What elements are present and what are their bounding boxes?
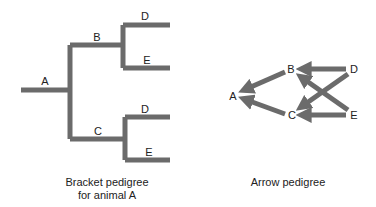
arrow-label-b: B [287, 64, 294, 75]
bracket-label-c: C [94, 126, 102, 137]
bracket-caption: Bracket pedigree for animal A [65, 176, 148, 202]
arrow-label-e: E [350, 110, 357, 121]
bracket-label-a: A [41, 76, 48, 87]
bracket-caption-line2: for animal A [65, 189, 148, 202]
arrow-caption: Arrow pedigree [251, 176, 326, 189]
arrow-label-d: D [350, 64, 358, 75]
bracket-label-b: B [93, 32, 100, 43]
arrow-b-to-a [244, 72, 285, 90]
bracket-pedigree [21, 25, 170, 160]
bracket-caption-line1: Bracket pedigree [65, 176, 148, 189]
arrow-c-to-a [244, 99, 285, 114]
bracket-label-e-bottom: E [145, 147, 152, 158]
bracket-label-e-top: E [143, 55, 150, 66]
arrow-label-c: C [288, 110, 296, 121]
bracket-label-d-top: D [141, 11, 149, 22]
arrow-label-a: A [229, 91, 236, 102]
bracket-label-d-bottom: D [141, 104, 149, 115]
